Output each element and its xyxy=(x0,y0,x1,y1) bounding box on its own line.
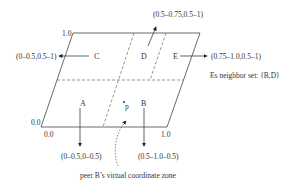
corner-label-bottom-right: 1.0 xyxy=(161,131,170,139)
split-line-d-e xyxy=(150,33,166,80)
zone-label-a: A xyxy=(80,100,86,108)
arrow-d xyxy=(148,27,156,46)
corner-label-origin-y: 0.0 xyxy=(31,119,40,127)
range-label-b: (0.5–1.0–0.5) xyxy=(138,153,179,161)
range-label-c: (0–0.5,0.5–1) xyxy=(16,53,57,61)
zone-label-c: C xyxy=(94,53,99,61)
range-label-d: (0.5–0.75,0.5–1) xyxy=(153,11,203,19)
corner-label-top-left: 1.0 xyxy=(62,30,71,38)
zone-label-d: D xyxy=(141,53,147,61)
corner-label-origin-x: 0.0 xyxy=(44,131,53,139)
range-label-e: (0.75–1.0,0.5–1) xyxy=(211,53,261,61)
neighbor-set-note: Es neighbor set: {B,D} xyxy=(210,72,280,80)
zone-label-b: B xyxy=(141,100,146,108)
zone-label-e: E xyxy=(173,53,178,61)
point-p-label: p xyxy=(125,103,129,111)
caption-arrow xyxy=(115,121,126,166)
range-label-a: (0–0.5,0–0.5) xyxy=(61,153,102,161)
caption: peer B’s virtual coordinate zone xyxy=(80,172,176,180)
